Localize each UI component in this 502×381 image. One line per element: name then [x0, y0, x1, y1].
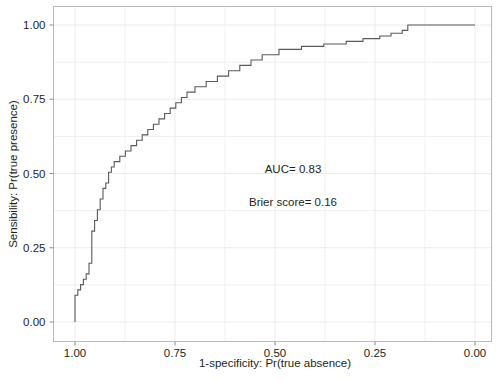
y-tick-label: 0.00: [23, 316, 45, 328]
x-tick-label: 0.25: [364, 347, 386, 359]
x-axis-title: 1-specificity: Pr(true absence): [199, 357, 351, 369]
y-tick-label: 0.25: [23, 242, 45, 254]
roc-plot-svg: 1.000.750.500.250.00 0.000.250.500.751.0…: [0, 0, 502, 381]
x-tick-label: 0.00: [464, 347, 486, 359]
y-tick-label: 0.75: [23, 93, 45, 105]
y-axis-title: Sensibility: Pr(true presence): [7, 100, 19, 248]
y-tick-label: 0.50: [23, 168, 45, 180]
auc-annotation: AUC= 0.83: [265, 163, 322, 175]
brier-score-annotation: Brier score= 0.16: [249, 196, 337, 208]
y-tick-label: 1.00: [23, 19, 45, 31]
x-tick-label: 0.75: [164, 347, 186, 359]
roc-curve-figure: 1.000.750.500.250.00 0.000.250.500.751.0…: [0, 0, 502, 381]
x-tick-label: 1.00: [64, 347, 86, 359]
